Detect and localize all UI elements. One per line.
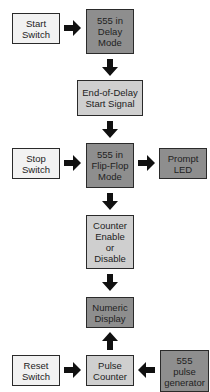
arrow-down-icon (102, 121, 118, 138)
arrow-left-icon (138, 362, 155, 378)
arrow-down-icon (102, 59, 118, 76)
arrow-right-icon (64, 362, 81, 378)
arrow-right-icon (138, 155, 155, 171)
arrow-right-icon (64, 155, 81, 171)
arrow-up-icon (102, 332, 118, 350)
arrow-right-icon (64, 20, 81, 36)
arrow-down-icon (102, 274, 118, 291)
arrow-down-icon (102, 193, 118, 210)
